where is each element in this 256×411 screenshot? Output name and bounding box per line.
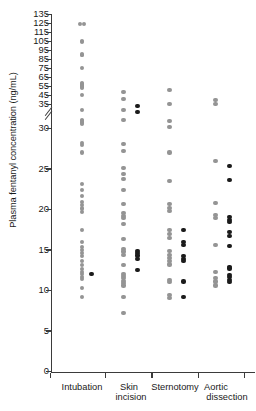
y-axis-label: Plasma fentanyl concentration (ng/mL) — [8, 0, 18, 300]
data-point-open — [121, 172, 125, 176]
x-category-line: dissection — [193, 392, 256, 403]
data-point-open — [121, 97, 125, 101]
data-point-open — [213, 216, 217, 220]
data-point-open — [80, 194, 84, 198]
data-point-open — [80, 66, 84, 70]
data-point-open — [167, 236, 171, 240]
data-point-open — [80, 122, 84, 126]
data-point-open — [167, 119, 171, 123]
data-point-open — [121, 149, 125, 153]
y-tick-25 — [46, 168, 51, 169]
data-point-open — [121, 188, 125, 192]
data-point-open — [213, 283, 217, 287]
data-point-open — [80, 188, 84, 192]
y-tick-20 — [46, 209, 51, 210]
y-tick-85 — [46, 59, 51, 60]
data-point-open — [121, 311, 125, 315]
x-tick-1 — [105, 373, 106, 378]
data-point-open — [121, 108, 125, 112]
data-point-open — [121, 237, 125, 241]
data-point-filled — [181, 259, 185, 263]
data-point-filled — [89, 272, 93, 276]
x-axis-spine — [51, 372, 256, 373]
data-point-open — [213, 102, 217, 106]
data-point-open — [82, 22, 86, 26]
y-tick-45 — [46, 95, 51, 96]
data-point-filled — [227, 220, 231, 224]
data-point-open — [121, 202, 125, 206]
x-tick-0 — [50, 373, 51, 378]
data-point-filled — [227, 234, 231, 238]
data-point-open — [80, 182, 84, 186]
y-tick-5 — [46, 330, 51, 331]
y-tick-95 — [46, 50, 51, 51]
data-point-filled — [181, 228, 185, 232]
x-tick-2 — [151, 373, 152, 378]
data-point-filled — [227, 178, 231, 182]
data-point-filled — [227, 244, 231, 248]
data-point-open — [167, 102, 171, 106]
data-point-filled — [227, 266, 231, 270]
x-tick-3 — [198, 373, 199, 378]
data-point-open — [80, 108, 84, 112]
y-tick-65 — [46, 77, 51, 78]
data-point-open — [121, 283, 125, 287]
data-point-open — [80, 254, 84, 258]
data-point-filled — [135, 257, 139, 261]
data-point-open — [167, 179, 171, 183]
y-axis-upper-spine — [51, 14, 52, 108]
data-point-open — [121, 166, 125, 170]
data-point-open — [167, 88, 171, 92]
data-point-filled — [227, 280, 231, 284]
data-point-open — [167, 296, 171, 300]
scatter-plot-figure: Plasma fentanyl concentration (ng/mL) 05… — [0, 0, 256, 411]
y-tick-135 — [46, 14, 51, 15]
data-point-open — [80, 53, 84, 57]
y-tick-125 — [46, 23, 51, 24]
y-tick-55 — [46, 86, 51, 87]
data-point-open — [80, 40, 84, 44]
data-point-open — [167, 125, 171, 129]
data-point-open — [80, 86, 84, 90]
data-point-open — [121, 263, 125, 267]
data-point-open — [121, 142, 125, 146]
y-tick-75 — [46, 68, 51, 69]
data-point-filled — [181, 243, 185, 247]
data-point-open — [80, 240, 84, 244]
x-category-label-aortic-dissection: Aorticdissection — [181, 382, 256, 403]
y-axis-tick-labels: 05101520253035455565758595105115125135 — [21, 0, 49, 411]
data-point-open — [80, 143, 84, 147]
data-point-open — [80, 295, 84, 299]
data-point-open — [167, 262, 171, 266]
data-point-open — [167, 280, 171, 284]
data-point-filled — [135, 110, 139, 114]
data-point-filled — [181, 295, 185, 299]
y-tick-30 — [46, 128, 51, 129]
data-point-open — [121, 177, 125, 181]
data-point-filled — [227, 164, 231, 168]
y-tick-105 — [46, 41, 51, 42]
data-point-open — [213, 270, 217, 274]
data-point-open — [121, 253, 125, 257]
data-point-open — [78, 22, 82, 26]
data-point-filled — [181, 279, 185, 283]
data-point-open — [121, 118, 125, 122]
data-point-open — [121, 90, 125, 94]
data-point-open — [213, 243, 217, 247]
y-tick-10 — [46, 290, 51, 291]
y-axis-lower-spine — [51, 108, 52, 372]
data-point-open — [80, 277, 84, 281]
data-point-open — [80, 150, 84, 154]
x-category-line: Aortic — [181, 382, 251, 393]
y-tick-15 — [46, 249, 51, 250]
data-point-open — [80, 228, 84, 232]
y-tick-115 — [46, 32, 51, 33]
y-tick-35 — [46, 104, 51, 105]
data-point-open — [213, 159, 217, 163]
data-point-open — [80, 210, 84, 214]
data-point-open — [80, 286, 84, 290]
data-point-open — [121, 295, 125, 299]
x-tick-4 — [244, 373, 245, 378]
data-point-open — [167, 209, 171, 213]
data-point-open — [167, 150, 171, 154]
